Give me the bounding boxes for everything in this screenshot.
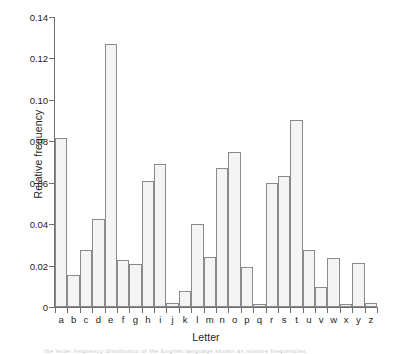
x-tick-mark xyxy=(55,308,56,313)
x-tick-mark xyxy=(303,308,304,313)
y-tick-mark xyxy=(49,100,54,101)
y-axis-tick-labels: 00.020.040.060.080.100.120.14 xyxy=(0,0,48,354)
x-tick-mark xyxy=(179,308,180,313)
bar-z xyxy=(365,303,377,307)
x-tick-mark xyxy=(216,308,217,313)
y-tick-mark xyxy=(49,17,54,18)
bar-p xyxy=(241,267,253,307)
x-axis-title: Letter xyxy=(0,331,412,343)
bar-n xyxy=(216,168,228,307)
x-tick-mark xyxy=(228,308,229,313)
x-tick-mark xyxy=(142,308,143,313)
bar-v xyxy=(315,287,327,307)
y-tick-label: 0 xyxy=(2,302,48,313)
bar-d xyxy=(92,219,104,307)
bar-e xyxy=(105,44,117,307)
bar-l xyxy=(191,224,203,307)
x-tick-mark xyxy=(241,308,242,313)
y-tick-label: 0.06 xyxy=(2,177,48,188)
bar-c xyxy=(80,250,92,307)
x-tick-mark xyxy=(327,308,328,313)
y-tick-mark xyxy=(49,58,54,59)
letter-frequency-bar-chart: Relative frequency 00.020.040.060.080.10… xyxy=(0,0,412,354)
bar-y xyxy=(352,263,364,307)
x-tick-mark xyxy=(166,308,167,313)
bar-b xyxy=(67,275,79,307)
y-tick-label: 0.10 xyxy=(2,94,48,105)
y-tick-mark xyxy=(49,224,54,225)
x-tick-mark xyxy=(105,308,106,313)
y-tick-mark xyxy=(49,183,54,184)
plot-area xyxy=(55,17,377,307)
y-tick-mark xyxy=(49,141,54,142)
y-tick-label: 0.02 xyxy=(2,260,48,271)
x-tick-mark xyxy=(266,308,267,313)
y-tick-label: 0.04 xyxy=(2,219,48,230)
bar-a xyxy=(55,138,67,307)
bar-x xyxy=(340,304,352,307)
bar-h xyxy=(142,181,154,307)
x-tick-mark xyxy=(290,308,291,313)
x-tick-mark xyxy=(80,308,81,313)
bar-m xyxy=(204,257,216,307)
x-tick-mark xyxy=(365,308,366,313)
x-tick-mark xyxy=(154,308,155,313)
x-tick-mark xyxy=(253,308,254,313)
bar-t xyxy=(290,120,302,307)
bar-w xyxy=(327,258,339,307)
x-tick-mark xyxy=(191,308,192,313)
bar-q xyxy=(253,304,265,307)
x-tick-mark xyxy=(340,308,341,313)
x-tick-mark xyxy=(204,308,205,313)
bar-j xyxy=(166,303,178,307)
bar-k xyxy=(179,291,191,307)
bar-f xyxy=(117,260,129,307)
bar-g xyxy=(129,264,141,307)
y-tick-label: 0.08 xyxy=(2,136,48,147)
y-tick-mark xyxy=(49,307,54,308)
x-tick-mark xyxy=(352,308,353,313)
bar-s xyxy=(278,176,290,307)
x-tick-label-z: z xyxy=(364,314,378,325)
x-tick-mark xyxy=(315,308,316,313)
y-tick-mark xyxy=(49,266,54,267)
bar-u xyxy=(303,250,315,307)
x-tick-mark xyxy=(67,308,68,313)
bar-i xyxy=(154,164,166,307)
x-tick-mark xyxy=(377,308,378,313)
y-tick-label: 0.14 xyxy=(2,12,48,23)
x-tick-mark xyxy=(92,308,93,313)
bar-o xyxy=(228,152,240,307)
x-axis-tick-labels: abcdefghijklmnopqrstuvwxyz xyxy=(55,314,377,330)
bar-r xyxy=(266,183,278,307)
y-tick-label: 0.12 xyxy=(2,53,48,64)
x-tick-mark xyxy=(117,308,118,313)
x-tick-mark xyxy=(278,308,279,313)
cropped-caption-text: the letter frequency distribution of the… xyxy=(44,348,374,354)
x-tick-mark xyxy=(129,308,130,313)
